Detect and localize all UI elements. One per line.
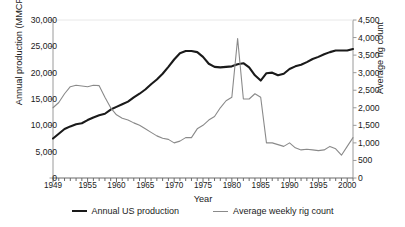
x-axis-ticklabel: 1955 <box>79 181 97 190</box>
y-axis-right-ticklabel: 4,000 <box>358 33 380 43</box>
y-axis-right-ticklabel: 3,000 <box>358 68 380 78</box>
y-axis-right-ticklabel: 2,500 <box>358 85 380 95</box>
x-axis-ticklabel: 1965 <box>136 181 154 190</box>
cut-off-title <box>50 0 370 6</box>
legend-item-rig-count: Average weekly rig count <box>213 206 333 216</box>
y-axis-right-ticklabel: 0 <box>358 173 363 183</box>
x-axis-title: Year <box>53 194 353 204</box>
y-axis-right-ticklabel: 500 <box>358 155 372 165</box>
y-axis-right-ticklabel: 3,500 <box>358 50 380 60</box>
x-axis-ticklabel: 1990 <box>280 181 298 190</box>
chart-legend: Annual US production Average weekly rig … <box>0 206 405 216</box>
y-axis-left-ticklabel: 30,000 <box>31 15 57 25</box>
y-axis-right-ticklabel: 1,000 <box>358 138 380 148</box>
plot-area <box>0 0 405 227</box>
legend-swatch-production-icon <box>72 210 87 212</box>
y-axis-left-ticklabel: 5,000 <box>35 147 57 157</box>
legend-swatch-rig-count-icon <box>213 211 228 212</box>
x-axis-ticklabel: 2000 <box>338 181 356 190</box>
y-axis-right-ticklabel: 1,500 <box>358 120 380 130</box>
x-axis-ticklabel: 1970 <box>165 181 183 190</box>
x-axis-ticklabel: 1985 <box>252 181 270 190</box>
y-axis-left-ticklabel: 25,000 <box>31 41 57 51</box>
x-axis-ticklabel: 1949 <box>44 181 62 190</box>
chart-figure: Annual production (MMCF) Average rig cou… <box>0 0 405 227</box>
y-axis-left-ticklabel: 20,000 <box>31 68 57 78</box>
y-axis-left-ticklabel: 10,000 <box>31 120 57 130</box>
y-axis-left-ticklabel: 15,000 <box>31 94 57 104</box>
x-axis-ticklabel: 1960 <box>107 181 125 190</box>
x-axis-ticklabel: 1975 <box>194 181 212 190</box>
y-axis-right-ticklabel: 2,000 <box>358 103 380 113</box>
x-axis-ticklabel: 1980 <box>223 181 241 190</box>
legend-label-production: Annual US production <box>92 206 180 216</box>
legend-item-production: Annual US production <box>72 206 180 216</box>
y-axis-left-title: Annual production (MMCF) <box>14 0 24 130</box>
x-axis-ticklabel: 1995 <box>309 181 327 190</box>
legend-label-rig-count: Average weekly rig count <box>233 206 333 216</box>
y-axis-right-ticklabel: 4,500 <box>358 15 380 25</box>
